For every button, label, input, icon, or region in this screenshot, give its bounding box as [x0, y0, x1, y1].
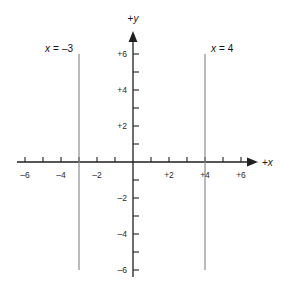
- x-axis-arrowhead: [247, 158, 258, 167]
- x-tick-label-plus-6: +6: [236, 170, 246, 180]
- x-axis-title: +x: [262, 157, 274, 168]
- x-tick-label-minus-2: –2: [92, 170, 102, 180]
- y-tick-label-minus-6: –6: [118, 265, 128, 275]
- label-x-equals-minus-3: x=–3: [44, 43, 73, 54]
- x-tick-label-plus-2: +2: [164, 170, 174, 180]
- x-tick-label-minus-4: –4: [56, 170, 66, 180]
- y-tick-label-plus-4: +4: [117, 85, 127, 95]
- x-tick-label-minus-6: –6: [20, 170, 30, 180]
- y-tick-label-plus-6: +6: [117, 49, 127, 59]
- y-axis-title: +y: [128, 13, 140, 24]
- y-tick-label-minus-2: –2: [118, 193, 128, 203]
- y-axis-arrowhead: [129, 31, 138, 42]
- y-tick-label-plus-2: +2: [117, 121, 127, 131]
- graph-canvas: –6 –4 –2 +2 +4 +6 +6 +4 +2 –2 –4 –6 +x +…: [0, 0, 285, 285]
- label-x-equals-4: x=4: [210, 43, 234, 54]
- x-tick-label-plus-4: +4: [200, 170, 210, 180]
- y-tick-label-minus-4: –4: [118, 229, 128, 239]
- coordinate-plane-figure: –6 –4 –2 +2 +4 +6 +6 +4 +2 –2 –4 –6 +x +…: [0, 0, 285, 285]
